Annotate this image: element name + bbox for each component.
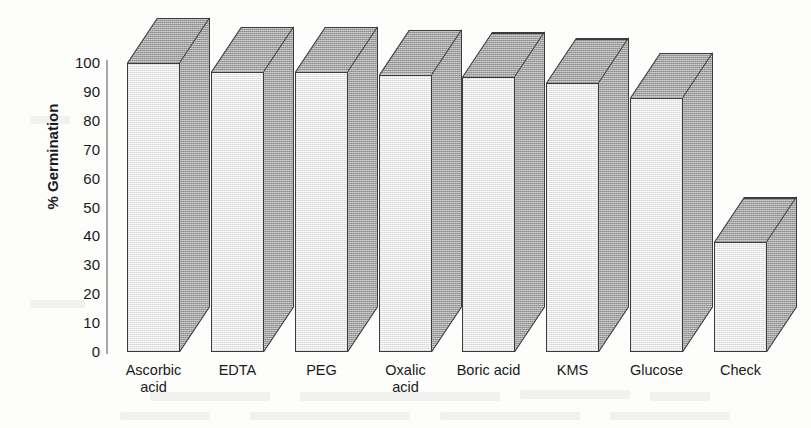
y-tick-label: 40 <box>54 228 100 243</box>
bar-edge <box>209 18 210 307</box>
plot-area: AscorbicacidEDTAPEGOxalicacidBoric acidK… <box>108 0 808 428</box>
bar[interactable] <box>295 27 378 352</box>
bar-edge <box>628 38 629 307</box>
bar-edge <box>293 27 294 307</box>
bar-edge <box>544 32 545 307</box>
x-axis-label-line1: Glucose <box>616 362 697 379</box>
bar[interactable] <box>462 32 545 352</box>
y-tick-label: 20 <box>54 286 100 301</box>
x-axis-label-line2: acid <box>365 379 446 396</box>
bar[interactable] <box>714 197 797 352</box>
bar[interactable] <box>630 53 713 352</box>
bar-front-face <box>211 72 264 352</box>
bar-edge <box>744 197 797 198</box>
bar-front-face <box>462 77 515 352</box>
y-tick-label: 60 <box>54 171 100 186</box>
bar-edge <box>377 27 378 307</box>
x-axis-label: Boric acid <box>448 362 529 379</box>
bar[interactable] <box>546 38 629 352</box>
x-axis-label: Check <box>700 362 781 379</box>
bar-side-face <box>432 30 463 352</box>
bar-edge <box>409 30 462 31</box>
bar-edge <box>660 53 713 54</box>
x-axis-label: KMS <box>532 362 613 379</box>
y-tick-label: 10 <box>54 315 100 330</box>
y-tick-label: 100 <box>54 55 100 70</box>
y-tick-label: 50 <box>54 200 100 215</box>
bar-side-face <box>180 18 211 352</box>
x-axis-label-line1: Oxalic <box>365 362 446 379</box>
x-axis-label-line1: Check <box>700 362 781 379</box>
bar-edge <box>576 38 629 39</box>
x-axis-label-line1: KMS <box>532 362 613 379</box>
x-axis-label: EDTA <box>197 362 278 379</box>
y-tick-label: 80 <box>54 113 100 128</box>
bar[interactable] <box>379 30 462 352</box>
x-axis-label-line1: Boric acid <box>448 362 529 379</box>
bar-side-face <box>348 27 379 352</box>
bar-side-face <box>683 53 714 352</box>
bar-front-face <box>546 83 599 352</box>
bar-edge <box>712 53 713 307</box>
x-axis-label-line2: acid <box>113 379 194 396</box>
bar[interactable] <box>211 27 294 352</box>
y-axis-tick-labels: 0102030405060708090100 <box>46 0 100 428</box>
x-axis-label-line1: EDTA <box>197 362 278 379</box>
germination-bar-chart: % Germination 0102030405060708090100 Asc… <box>0 0 811 428</box>
bar-side-face <box>264 27 295 352</box>
x-axis-label: Ascorbicacid <box>113 362 194 396</box>
y-tick-label: 30 <box>54 257 100 272</box>
bar-front-face <box>714 242 767 352</box>
bar-side-face <box>599 38 630 352</box>
y-tick-label: 90 <box>54 84 100 99</box>
bar-side-face <box>515 32 546 352</box>
bar-front-face <box>295 72 348 352</box>
bar-front-face <box>127 63 180 352</box>
bar-edge <box>492 32 545 33</box>
bar-edge <box>796 197 797 307</box>
bar-edge <box>325 27 378 28</box>
x-axis-label: Glucose <box>616 362 697 379</box>
bar-edge <box>157 18 210 19</box>
x-axis-label: PEG <box>281 362 362 379</box>
y-tick-label: 0 <box>54 344 100 359</box>
bar-front-face <box>379 75 432 352</box>
x-axis-label-line1: PEG <box>281 362 362 379</box>
x-axis-label: Oxalicacid <box>365 362 446 396</box>
x-axis-label-line1: Ascorbic <box>113 362 194 379</box>
bar[interactable] <box>127 18 210 352</box>
bar-edge <box>241 27 294 28</box>
y-tick-label: 70 <box>54 142 100 157</box>
bar-front-face <box>630 98 683 352</box>
